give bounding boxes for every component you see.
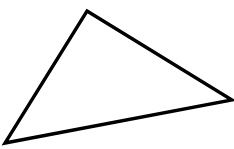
triangle-figure xyxy=(0,0,234,149)
canvas-background xyxy=(0,0,234,149)
drawing-canvas xyxy=(0,0,234,149)
